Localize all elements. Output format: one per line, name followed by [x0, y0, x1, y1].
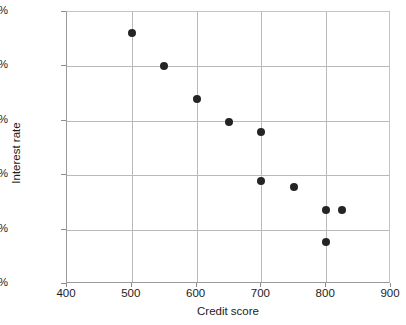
- data-point: [257, 128, 265, 136]
- y-axis-tick-mark: [61, 65, 66, 66]
- gridline-vertical: [261, 12, 262, 282]
- y-axis-tick-mark: [61, 11, 66, 12]
- y-axis-tick-mark: [61, 174, 66, 175]
- data-point: [338, 206, 346, 214]
- y-axis-tick-label: 7.00%: [0, 59, 8, 70]
- plot-area: [66, 11, 390, 283]
- x-axis-tick-label: 700: [230, 287, 290, 299]
- gridline-horizontal: [67, 230, 389, 231]
- x-axis-tick-label: 500: [101, 287, 161, 299]
- gridline-horizontal: [67, 175, 389, 176]
- data-point: [128, 29, 136, 37]
- data-point: [322, 206, 330, 214]
- x-axis-tick-label: 400: [36, 287, 96, 299]
- x-axis-tick-label: 900: [360, 287, 406, 299]
- data-point: [322, 238, 330, 246]
- y-axis-tick-mark: [61, 120, 66, 121]
- y-axis-tick-label: 6.50%: [0, 114, 8, 125]
- x-axis-title: Credit score: [66, 305, 390, 317]
- x-axis-tick-label: 600: [166, 287, 226, 299]
- y-axis-title: Interest rate: [10, 83, 22, 223]
- gridline-vertical: [132, 12, 133, 282]
- y-axis-tick-label: 6.00%: [0, 168, 8, 179]
- data-point: [290, 183, 298, 191]
- gridline-vertical: [197, 12, 198, 282]
- y-axis-tick-label: 7.50%: [0, 5, 8, 16]
- data-point: [225, 118, 233, 126]
- y-axis-tick-label: 5.00%: [0, 277, 8, 288]
- scatter-chart: Interest rate Credit score 5.00%5.50%6.0…: [0, 0, 406, 325]
- data-point: [160, 62, 168, 70]
- data-point: [193, 95, 201, 103]
- y-axis-tick-mark: [61, 229, 66, 230]
- x-axis-tick-label: 800: [295, 287, 355, 299]
- gridline-horizontal: [67, 66, 389, 67]
- data-point: [257, 177, 265, 185]
- y-axis-tick-label: 5.50%: [0, 223, 8, 234]
